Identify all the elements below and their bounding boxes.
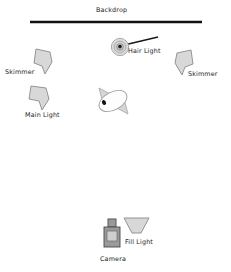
camera-back-panel xyxy=(107,231,117,241)
camera-icon[interactable] xyxy=(104,219,120,247)
fill-light-icon[interactable] xyxy=(124,218,149,233)
skimmer-left-body xyxy=(34,49,52,74)
camera-label: Camera xyxy=(100,255,126,263)
main-light-label: Main Light xyxy=(25,111,60,119)
fill-light-label: Fill Light xyxy=(125,238,153,246)
camera-lens xyxy=(108,219,116,227)
lighting-diagram: Backdrop Hair Light Skimmer Skimmer Main… xyxy=(0,0,231,272)
hair-light-label: Hair Light xyxy=(128,47,161,55)
diagram-graphics xyxy=(0,0,231,272)
main-light-body xyxy=(29,86,49,110)
fill-light-body xyxy=(124,218,149,233)
main-light-icon[interactable] xyxy=(29,86,49,110)
subject-figure xyxy=(96,86,131,116)
backdrop-label: Backdrop xyxy=(96,6,127,14)
skimmer-left-icon[interactable] xyxy=(34,49,52,74)
skimmer-left-label: Skimmer xyxy=(5,68,35,76)
skimmer-right-label: Skimmer xyxy=(188,70,218,78)
hair-light-bulb-dot xyxy=(118,45,122,49)
